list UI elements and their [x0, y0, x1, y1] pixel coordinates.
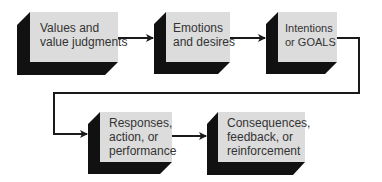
node-intentions-face: Intentions or GOALS [278, 12, 337, 62]
node-emotions-face: Emotions and desires [166, 12, 230, 62]
node-consequences-line-1: Consequences, [227, 116, 305, 130]
node-consequences-line-2: feedback, or [227, 130, 305, 144]
node-responses-line-3: performance [109, 144, 172, 158]
node-responses-face: Responses, action, or performance [100, 112, 172, 162]
node-emotions-line-2: and desires [173, 35, 230, 49]
node-consequences-face: Consequences, feedback, or reinforcement [218, 112, 305, 162]
node-responses-line-1: Responses, [109, 116, 172, 130]
node-intentions-line-2: or GOALS [285, 35, 337, 49]
node-values-line-2: value judgments [40, 35, 118, 49]
node-values-face: Values and value judgments [30, 12, 118, 62]
node-intentions-line-1: Intentions [285, 21, 337, 35]
node-consequences-line-3: reinforcement [227, 144, 305, 158]
node-values-line-1: Values and [40, 21, 118, 35]
node-responses-line-2: action, or [109, 130, 172, 144]
node-emotions-line-1: Emotions [173, 21, 230, 35]
